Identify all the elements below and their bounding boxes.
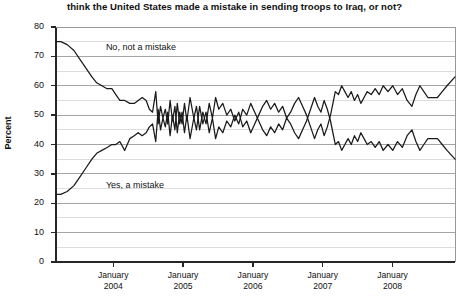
x-tick-month: January — [78, 270, 148, 281]
y-tick-label: 40 — [18, 140, 44, 149]
x-tick-month: January — [358, 270, 428, 281]
x-tick-month: January — [148, 270, 218, 281]
x-tick-year: 2007 — [288, 281, 358, 292]
data-series-group — [56, 42, 455, 195]
series-annotation-label: No, not a mistake — [106, 42, 176, 52]
y-tick-label: 60 — [18, 81, 44, 90]
y-tick-label: 10 — [18, 228, 44, 237]
x-tick-year: 2006 — [218, 281, 288, 292]
y-tick-label: 30 — [18, 169, 44, 178]
axis-ticks — [51, 27, 393, 267]
x-tick-year: 2004 — [78, 281, 148, 292]
series-annotation-label: Yes, a mistake — [106, 180, 164, 190]
x-tick-year: 2008 — [358, 281, 428, 292]
y-tick-label: 0 — [18, 257, 44, 266]
x-tick-label: January2006 — [218, 270, 288, 291]
x-tick-month: January — [218, 270, 288, 281]
y-tick-label: 80 — [18, 22, 44, 31]
chart-figure: think the United States made a mistake i… — [0, 0, 469, 301]
y-tick-label: 50 — [18, 110, 44, 119]
x-tick-label: January2008 — [358, 270, 428, 291]
x-tick-label: January2005 — [148, 270, 218, 291]
x-tick-year: 2005 — [148, 281, 218, 292]
y-tick-label: 70 — [18, 51, 44, 60]
x-tick-month: January — [288, 270, 358, 281]
y-tick-label: 20 — [18, 198, 44, 207]
x-tick-label: January2004 — [78, 270, 148, 291]
plot-area — [0, 0, 469, 301]
x-tick-label: January2007 — [288, 270, 358, 291]
